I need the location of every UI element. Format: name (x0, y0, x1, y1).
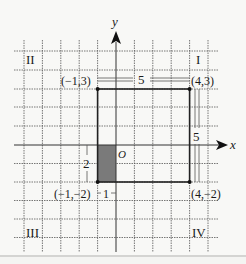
dimension-label-top: 5 (138, 72, 145, 87)
shaded-region (98, 145, 116, 182)
quadrant-label-I: I (196, 52, 200, 67)
point-label: (−1,−2) (54, 187, 91, 201)
quadrant-label-II: II (26, 52, 35, 67)
x-axis-label: x (229, 137, 236, 152)
vertex-dot (96, 87, 100, 91)
separator-line (0, 255, 246, 257)
quadrant-label-IV: IV (192, 225, 206, 240)
origin-label: O (118, 148, 126, 160)
y-axis-label: y (110, 14, 118, 29)
quadrant-label-III: III (26, 225, 39, 240)
vertex-dot (188, 180, 192, 184)
dimension-label-shaded-width: 1 (103, 187, 109, 201)
coordinate-diagram: y x O II I III IV (−1,3) (4,3) (−1,−2) (… (0, 0, 246, 256)
dimension-label-right: 5 (193, 129, 200, 144)
point-label: (−1,3) (61, 74, 91, 88)
dimension-label-shaded-height: 2 (83, 156, 90, 171)
point-label: (4,−2) (191, 187, 221, 201)
vertex-dot (96, 180, 100, 184)
point-label: (4,3) (191, 74, 214, 88)
